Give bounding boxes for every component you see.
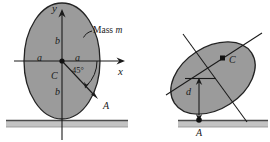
left-center-label: C: [51, 71, 58, 81]
left-semi-axis-a-right: a: [75, 53, 80, 63]
left-angle-label: 45°: [72, 66, 84, 75]
left-center-marker: [59, 58, 64, 63]
right-center-marker: [220, 56, 225, 61]
left-diagram-graphics: [0, 0, 270, 142]
mass-label-prefix: Mass: [93, 25, 115, 35]
right-ground: [178, 120, 268, 127]
left-semi-axis-b-bottom: b: [55, 87, 60, 97]
left-semi-axis-b-top: b: [55, 36, 60, 46]
right-distance-label: d: [186, 87, 191, 97]
mechanics-figure: y x Mass m b a a C 45° b A C d A: [0, 0, 270, 142]
right-center-label: C: [229, 55, 236, 65]
left-mass-label: Mass m: [93, 26, 122, 36]
right-contact-marker: [196, 117, 202, 123]
left-y-axis-label: y: [52, 3, 57, 14]
left-semi-axis-a-left: a: [37, 53, 42, 63]
left-ground: [6, 120, 128, 127]
right-contact-point-label: A: [196, 128, 202, 138]
left-contact-point-label: A: [103, 101, 109, 111]
mass-label-symbol: m: [115, 25, 122, 35]
left-x-axis-label: x: [118, 66, 123, 77]
